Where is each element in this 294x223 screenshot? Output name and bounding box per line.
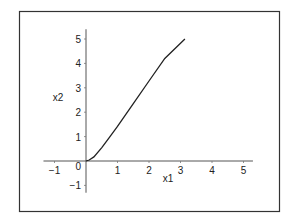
y-tick-label: 5 (75, 34, 81, 45)
y-tick-label: 1 (75, 132, 81, 143)
y-tick-label: −1 (70, 180, 82, 191)
x-tick-label: −1 (49, 165, 61, 176)
y-axis-label: x2 (53, 92, 64, 103)
y-tick-label: 4 (75, 58, 81, 69)
x-tick-label: 3 (178, 165, 184, 176)
y-tick-label: 3 (75, 83, 81, 94)
y-tick-label: 2 (75, 107, 81, 118)
x-tick-label: 1 (115, 165, 121, 176)
x-tick-label: 4 (209, 165, 215, 176)
chart: −112345−1012345 x1 x2 (0, 0, 294, 223)
x-axis-label: x1 (163, 173, 174, 184)
y-tick-label: 0 (75, 161, 81, 172)
x-tick-label: 2 (146, 165, 152, 176)
chart-frame (20, 12, 280, 212)
x-tick-label: 5 (241, 165, 247, 176)
